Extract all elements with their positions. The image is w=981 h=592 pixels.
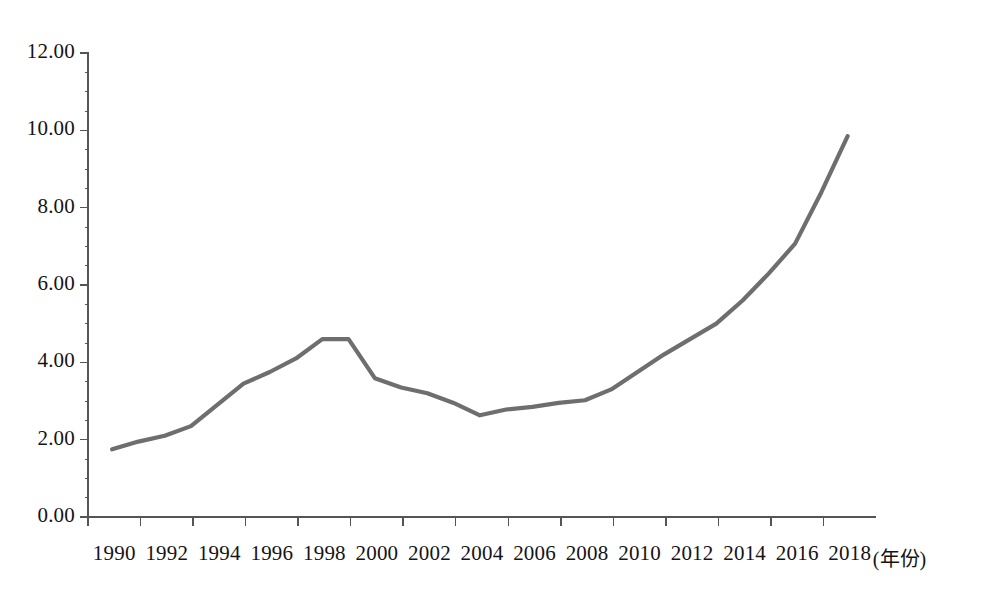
y-tick-label: 12.00 — [27, 39, 75, 64]
chart-tick-marks — [80, 53, 823, 526]
y-tick-label: 6.00 — [37, 271, 75, 296]
chart-data-line — [112, 136, 847, 449]
chart-container: 0.002.004.006.008.0010.0012.00 199019921… — [0, 0, 981, 592]
y-tick-label: 2.00 — [37, 426, 75, 451]
x-axis-unit-label: (年份) — [873, 543, 926, 572]
y-tick-label: 10.00 — [27, 116, 75, 141]
series-line-1 — [112, 136, 847, 449]
y-tick-label: 8.00 — [37, 194, 75, 219]
y-tick-label: 0.00 — [37, 503, 75, 528]
y-tick-label: 4.00 — [37, 348, 75, 373]
chart-svg — [0, 0, 981, 592]
